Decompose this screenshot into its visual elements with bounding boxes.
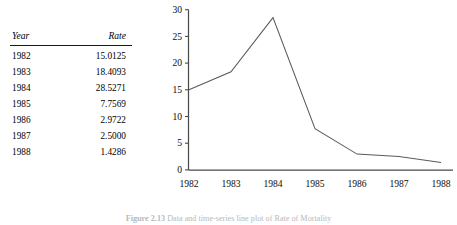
x-tick-label: 1983	[221, 178, 240, 189]
table-row: 1988 1.4286	[10, 145, 132, 161]
cell-rate: 1.4286	[54, 145, 132, 161]
cell-year: 1988	[10, 145, 54, 161]
figure-container: Year Rate 1982 15.0125 1983 18.4093 1984…	[0, 0, 457, 225]
x-axis-tick-labels: 1982 1983 1984 1985 1986 1987 1988	[179, 178, 450, 189]
x-tick-label: 1985	[305, 178, 324, 189]
series-line-rate	[189, 18, 441, 163]
y-axis-tick-labels: 30 25 20 15 10 5 0	[172, 4, 182, 175]
column-header-year: Year	[10, 30, 54, 46]
column-header-rate: Rate	[54, 30, 132, 46]
x-tick-label: 1982	[179, 178, 198, 189]
table-row: 1985 7.7569	[10, 97, 132, 113]
cell-rate: 2.5000	[54, 129, 132, 145]
x-tick-label: 1986	[347, 178, 366, 189]
table-header-row: Year Rate	[10, 30, 132, 46]
line-chart: 30 25 20 15 10 5 0	[160, 0, 457, 200]
cell-year: 1983	[10, 65, 54, 81]
table-row: 1982 15.0125	[10, 46, 132, 65]
table-row: 1983 18.4093	[10, 65, 132, 81]
cell-rate: 15.0125	[54, 46, 132, 65]
y-tick-label: 0	[177, 164, 182, 175]
figure-caption-text: Data and time-series line plot of Rate o…	[167, 214, 331, 223]
chart-svg: 30 25 20 15 10 5 0	[160, 0, 457, 200]
table-row: 1986 2.9722	[10, 113, 132, 129]
data-table: Year Rate 1982 15.0125 1983 18.4093 1984…	[10, 30, 132, 160]
cell-rate: 28.5271	[54, 81, 132, 97]
cell-rate: 18.4093	[54, 65, 132, 81]
x-tick-label: 1984	[263, 178, 282, 189]
rate-table: Year Rate 1982 15.0125 1983 18.4093 1984…	[10, 30, 132, 160]
cell-year: 1984	[10, 81, 54, 97]
x-tick-label: 1988	[431, 178, 450, 189]
table-row: 1984 28.5271	[10, 81, 132, 97]
figure-caption: Figure 2.13 Data and time-series line pl…	[0, 214, 457, 223]
y-tick-label: 30	[172, 4, 182, 15]
x-tick-label: 1987	[389, 178, 408, 189]
cell-year: 1985	[10, 97, 54, 113]
y-tick-label: 25	[172, 31, 182, 42]
cell-year: 1986	[10, 113, 54, 129]
figure-caption-label: Figure 2.13	[126, 214, 165, 223]
y-tick-label: 15	[172, 84, 182, 95]
table-body: 1982 15.0125 1983 18.4093 1984 28.5271 1…	[10, 46, 132, 161]
cell-rate: 2.9722	[54, 113, 132, 129]
y-tick-label: 10	[172, 111, 182, 122]
cell-year: 1982	[10, 46, 54, 65]
table-header: Year Rate	[10, 30, 132, 46]
y-tick-label: 20	[172, 57, 182, 68]
table-row: 1987 2.5000	[10, 129, 132, 145]
y-tick-label: 5	[177, 137, 182, 148]
cell-year: 1987	[10, 129, 54, 145]
cell-rate: 7.7569	[54, 97, 132, 113]
